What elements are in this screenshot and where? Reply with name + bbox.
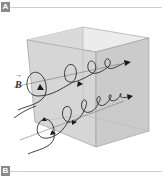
- vector-letter: B: [15, 79, 22, 90]
- panel-b-divider: [10, 171, 162, 172]
- box-right-face: [96, 38, 149, 147]
- vector-arrow: →: [15, 71, 22, 79]
- magnetic-field-helix-diagram: [0, 0, 162, 178]
- panel-label-b: B: [1, 166, 10, 176]
- vector-label-b: → B: [15, 79, 22, 90]
